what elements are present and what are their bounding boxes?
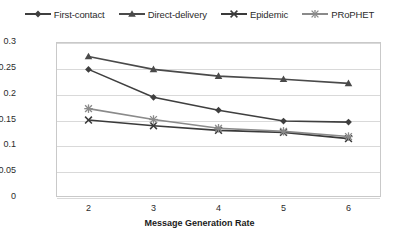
y-axis-tick-label: 0.15 <box>0 114 16 124</box>
data-point-diamond <box>34 11 41 18</box>
chart-legend: First-contactDirect-deliveryEpidemicPRoP… <box>0 8 399 20</box>
gridline <box>57 69 380 70</box>
delivery-probability-chart: First-contactDirect-deliveryEpidemicPRoP… <box>0 0 399 238</box>
gridline <box>57 121 380 122</box>
legend-item-epidemic[interactable]: Epidemic <box>221 8 288 20</box>
legend-label: First-contact <box>54 9 105 20</box>
y-axis-tick-label: 0.1 <box>0 139 16 149</box>
legend-label: Epidemic <box>250 9 288 20</box>
legend-item-prophet[interactable]: PRoPHET <box>302 8 374 20</box>
legend-item-first-contact[interactable]: First-contact <box>25 8 105 20</box>
x-axis-tick-label: 3 <box>139 203 169 213</box>
plot-area <box>56 42 381 197</box>
y-axis-tick-label: 0.25 <box>0 62 16 72</box>
data-point-asterisk <box>311 10 319 18</box>
y-axis-tick-label: 0.2 <box>0 88 16 98</box>
x-axis-label: Message Generation Rate <box>0 218 399 228</box>
data-point-x-cross <box>230 11 237 18</box>
gridline <box>57 43 380 44</box>
gridline <box>57 95 380 96</box>
y-axis-tick-label: 0.3 <box>0 36 16 46</box>
x-axis-tick-label: 2 <box>74 203 104 213</box>
legend-marker-triangle-icon <box>128 10 136 18</box>
gridline <box>57 198 380 199</box>
y-axis-tick-label: 0 <box>0 191 16 201</box>
legend-key-triangle-icon <box>119 8 145 20</box>
legend-key-asterisk-icon <box>302 8 328 20</box>
legend-key-x-cross-icon <box>221 8 247 20</box>
x-axis-tick-label: 5 <box>269 203 299 213</box>
legend-item-direct-delivery[interactable]: Direct-delivery <box>119 8 207 20</box>
x-axis-tick-label: 6 <box>334 203 364 213</box>
legend-label: PRoPHET <box>331 9 374 20</box>
gridline <box>57 146 380 147</box>
x-axis-tick-label: 4 <box>204 203 234 213</box>
legend-label: Direct-delivery <box>148 9 207 20</box>
y-axis-tick-label: 0.05 <box>0 165 16 175</box>
gridline <box>57 172 380 173</box>
legend-marker-x-cross-icon <box>230 10 238 18</box>
legend-key-diamond-icon <box>25 8 51 20</box>
legend-marker-asterisk-icon <box>311 10 319 18</box>
legend-marker-diamond-icon <box>34 10 42 18</box>
data-point-triangle <box>128 10 136 17</box>
